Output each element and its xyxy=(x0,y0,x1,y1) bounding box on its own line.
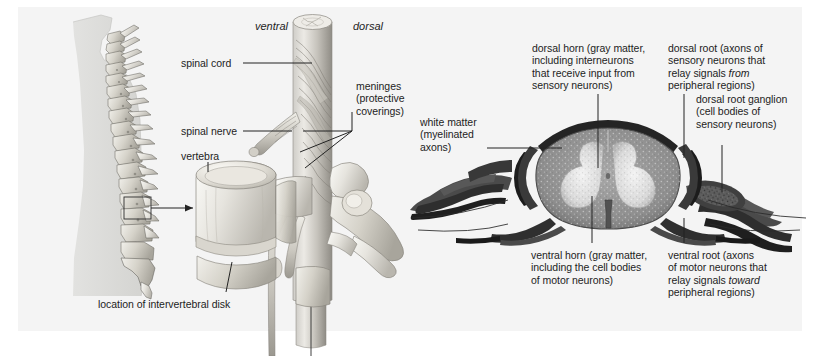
label-ventral-root-emphasis: toward xyxy=(729,274,760,286)
label-ventral-root-tail: peripheral regions) xyxy=(668,286,755,298)
label-dorsal-root-emphasis: from xyxy=(729,67,750,79)
label-spinal-cord: spinal cord xyxy=(181,57,231,69)
label-ventral-horn: ventral horn (gray matter, including the… xyxy=(531,249,647,286)
label-meninges: meninges (protective coverings) xyxy=(356,80,404,117)
label-spinal-nerve: spinal nerve xyxy=(181,125,237,137)
label-dorsal-horn: dorsal horn (gray matter, including inte… xyxy=(532,42,645,92)
label-white-matter: white matter (myelinated axons) xyxy=(420,116,477,153)
label-dorsal: dorsal xyxy=(353,20,383,32)
label-intervertebral-disk: location of intervertebral disk xyxy=(98,298,230,310)
label-vertebra: vertebra xyxy=(181,150,219,162)
label-dorsal-root-text: dorsal root (axons of sensory neurons th… xyxy=(668,42,765,79)
label-ventral: ventral xyxy=(255,20,288,32)
figure-root: ventral dorsal spinal cord spinal nerve … xyxy=(0,0,820,356)
label-ventral-root: ventral root (axons of motor neurons tha… xyxy=(668,249,798,299)
label-dorsal-root: dorsal root (axons of sensory neurons th… xyxy=(668,42,798,92)
label-dorsal-root-tail: peripheral regions) xyxy=(668,79,755,91)
label-dorsal-root-ganglion: dorsal root ganglion (cell bodies of sen… xyxy=(696,93,787,130)
